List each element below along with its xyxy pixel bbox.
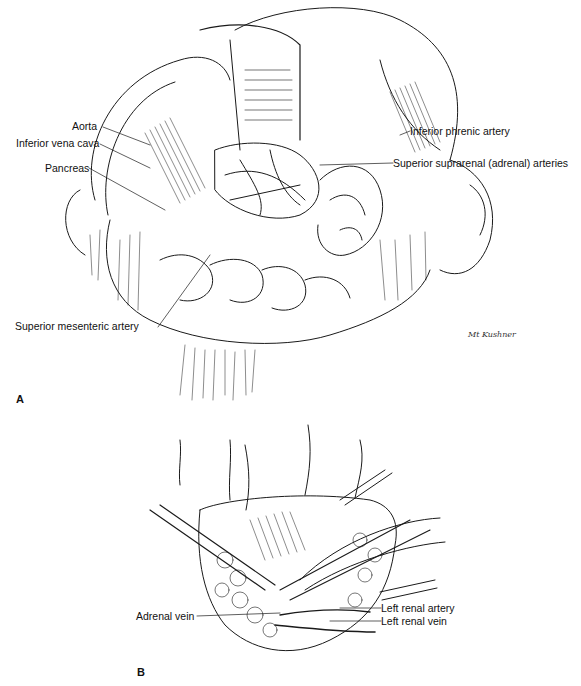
- panel-letter-a: A: [16, 393, 24, 405]
- label-adrenal-vein: Adrenal vein: [136, 610, 194, 622]
- panel-letter-b: B: [137, 666, 145, 678]
- anatomical-figure: Aorta Inferior vena cava Pancreas Inferi…: [0, 0, 581, 686]
- label-left-renal-vein: Left renal vein: [381, 615, 447, 627]
- artist-signature: Mt Kushner: [468, 330, 516, 339]
- label-superior-suprarenal-arteries: Superior suprarenal (adrenal) arteries: [393, 157, 568, 169]
- label-inferior-vena-cava: Inferior vena cava: [16, 137, 99, 149]
- label-pancreas: Pancreas: [45, 162, 89, 174]
- label-left-renal-artery: Left renal artery: [381, 602, 455, 614]
- panel-b-illustration: [0, 0, 581, 686]
- label-superior-mesenteric-artery: Superior mesenteric artery: [15, 320, 139, 332]
- label-aorta: Aorta: [72, 120, 97, 132]
- label-inferior-phrenic-artery: Inferior phrenic artery: [410, 125, 510, 137]
